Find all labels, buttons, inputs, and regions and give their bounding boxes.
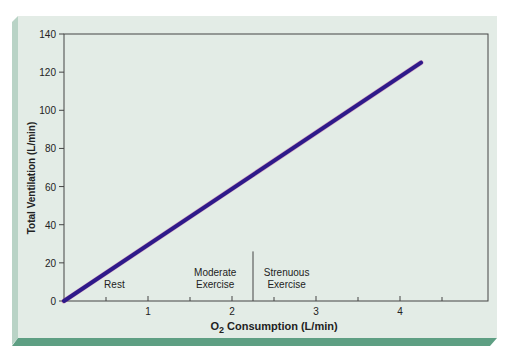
y-axis-title: Total Ventilation (L/min)	[26, 122, 37, 235]
chart-panel: 0204060801001201401234RestModerateExerci…	[0, 0, 512, 356]
x-tick-label: 1	[145, 306, 151, 317]
y-tick-label: 20	[45, 258, 57, 269]
region-label: Exercise	[196, 279, 235, 290]
ventilation-chart: 0204060801001201401234RestModerateExerci…	[0, 0, 512, 356]
x-tick-label: 4	[397, 306, 403, 317]
region-label: Moderate	[194, 267, 237, 278]
y-tick-label: 140	[39, 29, 56, 40]
y-tick-label: 120	[39, 67, 56, 78]
y-tick-label: 0	[50, 296, 56, 307]
y-tick-label: 80	[45, 143, 57, 154]
y-tick-label: 40	[45, 220, 57, 231]
panel-left-bevel	[12, 16, 18, 345]
y-tick-label: 60	[45, 182, 57, 193]
panel-bottom-bevel	[12, 338, 497, 346]
y-tick-label: 100	[39, 105, 56, 116]
panel-face	[18, 16, 497, 338]
region-label: Exercise	[267, 279, 306, 290]
x-tick-label: 3	[313, 306, 319, 317]
x-tick-label: 2	[229, 306, 235, 317]
region-label: Rest	[104, 279, 125, 290]
region-label: Strenuous	[264, 267, 310, 278]
